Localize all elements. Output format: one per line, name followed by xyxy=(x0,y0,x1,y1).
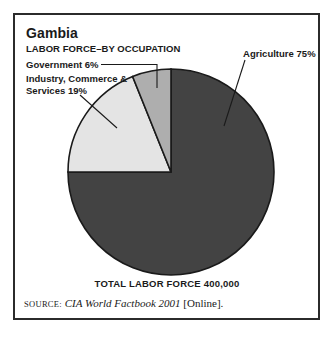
pie-chart-figure: Gambia LABOR FORCE–BY OCCUPATION Governm… xyxy=(0,0,334,340)
page-title: Gambia xyxy=(26,26,256,41)
slice-label-industry: Industry, Commerce & Services 19% xyxy=(26,73,146,97)
source-title: CIA World Factbook 2001 xyxy=(65,297,181,309)
slice-label-government: Government 6% xyxy=(26,59,99,71)
chart-subtitle: LABOR FORCE–BY OCCUPATION xyxy=(26,43,256,55)
source-suffix: [Online]. xyxy=(183,297,223,309)
chart-header: Gambia LABOR FORCE–BY OCCUPATION xyxy=(26,26,256,55)
slice-label-agriculture: Agriculture 75% xyxy=(243,48,316,60)
source-citation: SOURCE: CIA World Factbook 2001 [Online]… xyxy=(24,297,223,309)
total-labor-force-label: TOTAL LABOR FORCE 400,000 xyxy=(0,278,334,289)
source-label: SOURCE: xyxy=(24,299,62,309)
